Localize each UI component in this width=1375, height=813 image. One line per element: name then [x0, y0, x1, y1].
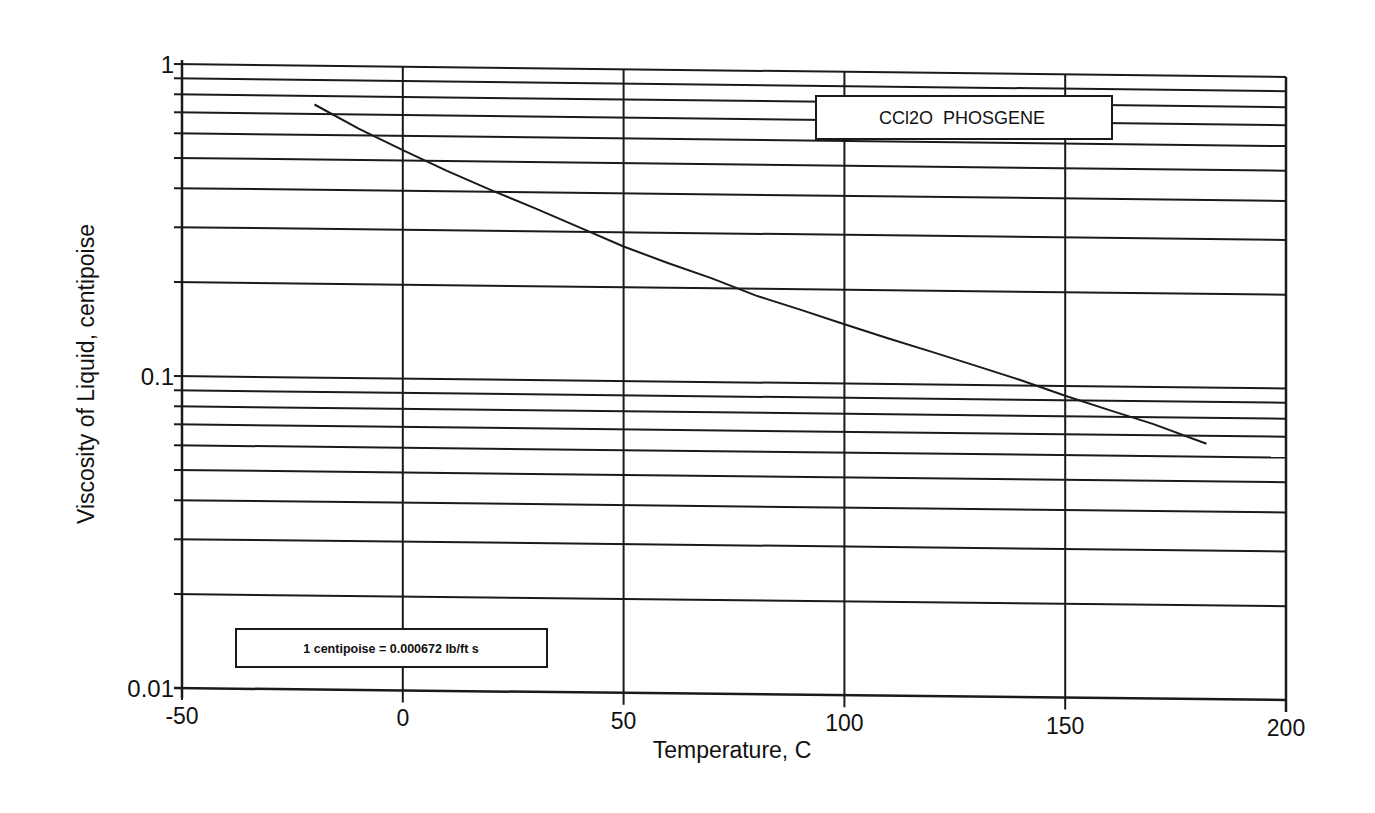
y-tick-label: 1: [161, 51, 174, 78]
gridline: [174, 282, 1286, 295]
gridline: [174, 539, 1286, 551]
conversion-note-box: 1 centipoise = 0.000672 lb/ft s: [236, 629, 547, 667]
gridline: [174, 64, 1286, 77]
gridline: [174, 376, 1286, 389]
gridline: [174, 500, 1286, 512]
gridline: [174, 227, 1286, 240]
gridline: [174, 594, 1286, 606]
x-tick-label: 200: [1267, 715, 1305, 741]
gridline: [174, 188, 1286, 201]
title-box: CCl2O PHOSGENE: [816, 96, 1112, 139]
chart: 0.010.11-50050100150200 CCl2O PHOSGENE 1…: [0, 0, 1375, 813]
gridline: [174, 158, 1286, 171]
x-tick-label: -50: [165, 703, 198, 729]
y-tick-label: 0.01: [127, 675, 174, 702]
x-tick-label: 50: [611, 708, 637, 734]
gridline: [174, 390, 1286, 402]
x-tick-label: 0: [396, 705, 409, 731]
gridline: [174, 445, 1286, 457]
gridlines: [174, 64, 1286, 712]
gridline: [174, 78, 1286, 91]
gridline: [174, 133, 1286, 146]
gridline: [174, 424, 1286, 436]
title-box-text: CCl2O PHOSGENE: [879, 108, 1045, 128]
x-axis-label: Temperature, C: [653, 737, 812, 763]
gridline: [174, 688, 1286, 700]
y-tick-label: 0.1: [141, 363, 174, 390]
x-tick-label: 100: [825, 710, 863, 736]
gridline: [174, 470, 1286, 482]
x-tick-label: 150: [1046, 713, 1084, 739]
y-axis-label: Viscosity of Liquid, centipoise: [73, 224, 99, 524]
conversion-note-text: 1 centipoise = 0.000672 lb/ft s: [303, 642, 478, 656]
gridline: [174, 94, 1286, 107]
plot-svg: 0.010.11-50050100150200 CCl2O PHOSGENE 1…: [0, 0, 1375, 813]
